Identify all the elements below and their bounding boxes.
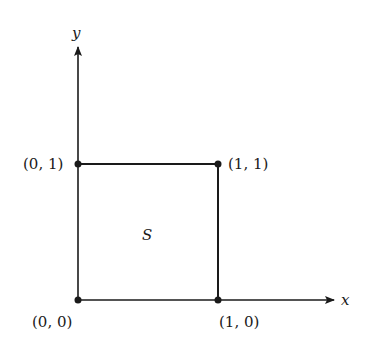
unit-square-diagram: y x S (0, 0) (1, 0) (0, 1) (1, 1) <box>0 0 374 347</box>
label-y1: (0, 1) <box>23 155 63 173</box>
label-origin: (0, 0) <box>32 313 72 331</box>
point-origin <box>75 297 82 304</box>
region-label: S <box>142 226 152 244</box>
point-x1 <box>215 297 222 304</box>
point-y1 <box>75 161 82 168</box>
y-axis-label: y <box>71 24 81 42</box>
label-xy1: (1, 1) <box>228 155 268 173</box>
point-xy1 <box>215 161 222 168</box>
x-axis-label: x <box>341 291 350 309</box>
label-x1: (1, 0) <box>219 313 259 331</box>
